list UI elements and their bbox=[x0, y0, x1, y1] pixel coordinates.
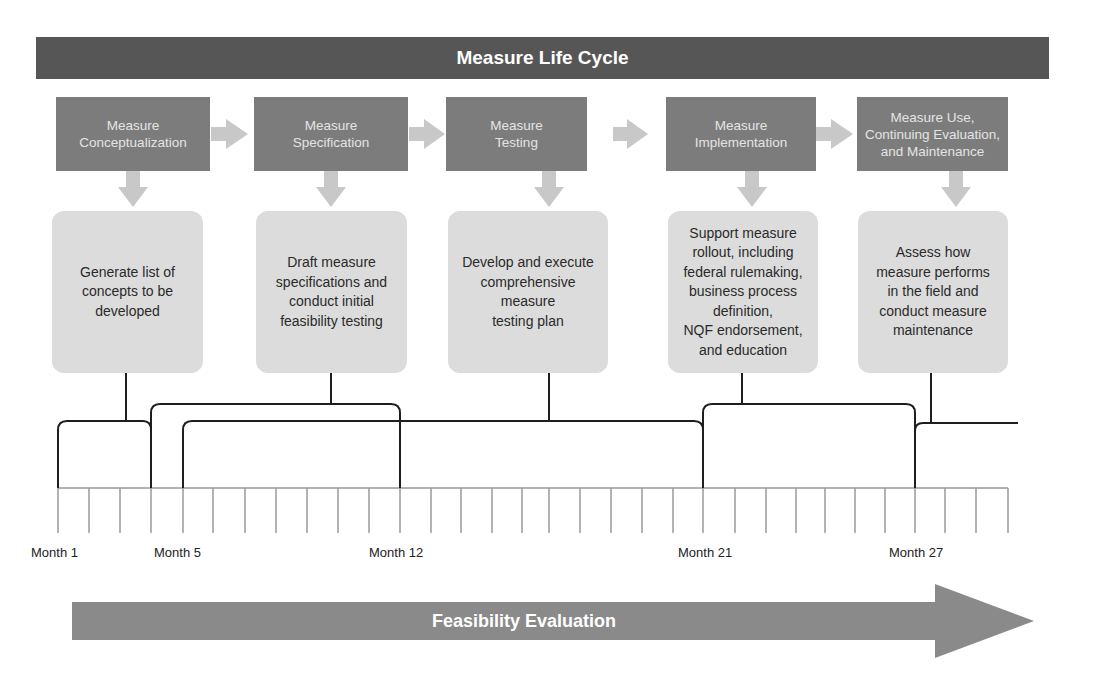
right-arrow-icon bbox=[816, 119, 853, 149]
phase-description: Draft measure specifications and conduct… bbox=[276, 253, 387, 331]
phase-label: Measure Use, Continuing Evaluation, and … bbox=[865, 109, 1000, 160]
phase-box-implementation: Measure Implementation bbox=[666, 97, 816, 171]
phase-label: Measure Testing bbox=[490, 117, 543, 151]
month-label: Month 12 bbox=[369, 545, 423, 560]
right-arrow-icon bbox=[211, 119, 248, 149]
phase-box-conceptualization: Measure Conceptualization bbox=[56, 97, 210, 171]
down-arrow-icon bbox=[534, 171, 564, 207]
arrow-label: Feasibility Evaluation bbox=[432, 611, 616, 632]
month-label: Month 27 bbox=[889, 545, 943, 560]
right-arrow-icon bbox=[613, 119, 648, 149]
phase-description: Assess how measure performs in the field… bbox=[876, 243, 990, 341]
down-arrow-icon bbox=[316, 171, 346, 207]
down-arrow-icon bbox=[941, 171, 971, 207]
phase-label: Measure Specification bbox=[293, 117, 370, 151]
phase-description: Generate list of concepts to be develope… bbox=[80, 263, 175, 322]
down-arrows bbox=[118, 171, 971, 207]
down-arrow-icon bbox=[118, 171, 148, 207]
phase-box-testing: Measure Testing bbox=[446, 97, 587, 171]
phase-description: Support measure rollout, including feder… bbox=[683, 224, 802, 361]
description-box-maintenance: Assess how measure performs in the field… bbox=[858, 211, 1008, 373]
description-box-conceptualization: Generate list of concepts to be develope… bbox=[52, 211, 203, 373]
timeline-ruler bbox=[58, 488, 1008, 533]
phase-box-specification: Measure Specification bbox=[254, 97, 408, 171]
bracket-specification bbox=[151, 404, 400, 488]
description-box-testing: Develop and execute comprehensive measur… bbox=[448, 211, 608, 373]
bracket-maintenance bbox=[915, 423, 1018, 488]
phase-description: Develop and execute comprehensive measur… bbox=[462, 253, 594, 331]
bracket-testing bbox=[183, 421, 703, 488]
description-box-specification: Draft measure specifications and conduct… bbox=[256, 211, 407, 373]
description-box-implementation: Support measure rollout, including feder… bbox=[668, 211, 818, 373]
phase-label: Measure Conceptualization bbox=[79, 117, 186, 151]
bracket-conceptualization bbox=[58, 421, 151, 488]
feasibility-evaluation-arrow: Feasibility Evaluation bbox=[84, 602, 964, 640]
month-label: Month 5 bbox=[154, 545, 201, 560]
bracket-implementation bbox=[703, 404, 915, 488]
phase-label: Measure Implementation bbox=[695, 117, 787, 151]
month-label: Month 21 bbox=[678, 545, 732, 560]
phase-box-maintenance: Measure Use, Continuing Evaluation, and … bbox=[857, 97, 1008, 171]
month-label: Month 1 bbox=[31, 545, 78, 560]
timeline-brackets bbox=[58, 373, 1018, 488]
right-arrow-icon bbox=[409, 119, 445, 149]
down-arrow-icon bbox=[737, 171, 767, 207]
